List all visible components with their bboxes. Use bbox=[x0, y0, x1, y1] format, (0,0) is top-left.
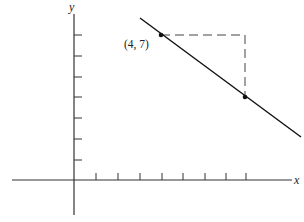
point-4-7 bbox=[159, 33, 164, 38]
y-axis-label: y bbox=[68, 0, 75, 14]
coordinate-plane: (4, 7) y x bbox=[0, 0, 304, 222]
line-series bbox=[140, 18, 301, 137]
point-label-4-7: (4, 7) bbox=[124, 38, 149, 51]
dashed-rise-run bbox=[161, 35, 245, 97]
x-axis-label: x bbox=[293, 173, 300, 187]
y-ticks bbox=[74, 35, 82, 160]
x-ticks bbox=[96, 173, 246, 180]
point-8-4 bbox=[243, 95, 248, 100]
